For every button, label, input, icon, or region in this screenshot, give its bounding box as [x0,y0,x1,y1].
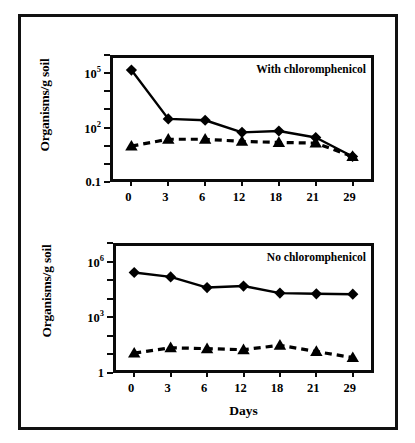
x-axis-tick-label: 21 [306,190,319,205]
x-axis-tick [241,179,243,186]
x-axis-tick-label: 0 [128,381,134,396]
data-point-diamond [129,267,140,278]
y-axis-title-bottom: Organisms/g soil [39,231,55,351]
y-axis-tick [104,54,110,56]
x-axis-tick [167,179,169,186]
y-axis-tick-label: 1 [98,366,104,381]
x-axis-tick-label: 6 [201,381,207,396]
y-axis-tick [107,261,113,263]
y-axis-tick [107,316,113,318]
x-axis-tick-label: 18 [270,190,283,205]
x-axis-title: Days [229,403,258,419]
plot-svg-top [113,58,371,179]
data-point-diamond [347,289,358,300]
x-axis-tick [243,370,245,377]
data-point-triangle [347,351,359,362]
data-point-triangle [310,345,322,356]
x-axis-tick-label: 29 [344,381,357,396]
y-axis-tick-label: 102 [84,119,101,136]
x-axis-tick [315,179,317,186]
y-axis-tick [104,90,110,92]
x-axis-tick-label: 21 [307,381,320,396]
x-axis-tick [133,370,135,377]
x-axis-tick [278,179,280,186]
x-axis-tick [206,370,208,377]
x-axis-tick [170,370,172,377]
x-axis-tick-label: 3 [162,190,168,205]
y-axis-tick [107,335,113,337]
chart-panel-no-chloromphenicol: Organisms/g soil 106103103612182129No ch… [21,235,401,431]
data-point-diamond [200,115,211,126]
y-axis-tick-label: 105 [84,65,101,82]
x-axis-tick-label: 12 [234,381,247,396]
y-axis-tick [107,372,113,374]
y-axis-tick [104,108,110,110]
y-axis-tick [104,181,110,183]
y-axis-tick [104,163,110,165]
y-axis-tick [107,298,113,300]
y-axis-tick [104,127,110,129]
data-point-diamond [273,125,284,136]
data-point-diamond [165,271,176,282]
y-axis-tick [107,242,113,244]
x-axis-tick [352,179,354,186]
plot-svg-bottom [116,246,371,370]
data-point-diamond [238,280,249,291]
x-axis-tick [315,370,317,377]
x-axis-tick-label: 29 [343,190,356,205]
y-axis-tick [104,72,110,74]
y-axis-tick-label: 0.1 [85,175,101,190]
chart-panel-with-chloromphenicol: Organisms/g soil 1051020.103612182129Wit… [21,49,401,231]
panel-condition-label: With chloromphenicol [256,63,366,75]
figure-border: Organisms/g soil 1051020.103612182129Wit… [18,14,398,430]
y-axis-tick-label: 103 [87,309,104,326]
x-axis-tick-label: 3 [165,381,171,396]
data-point-diamond [274,287,285,298]
x-axis-tick [279,370,281,377]
x-axis-tick-label: 12 [233,190,246,205]
y-axis-tick [107,353,113,355]
y-axis-tick-label: 106 [87,253,104,270]
x-axis-tick-label: 18 [271,381,284,396]
y-axis-tick [107,279,113,281]
panel-condition-label: No chloromphenicol [267,251,366,263]
x-axis-tick-label: 6 [199,190,205,205]
data-point-diamond [311,288,322,299]
data-point-diamond [201,282,212,293]
x-axis-tick [352,370,354,377]
x-axis-tick-label: 0 [125,190,131,205]
data-point-triangle [236,135,248,146]
y-axis-title-top: Organisms/g soil [37,45,53,165]
x-axis-tick [204,179,206,186]
x-axis-tick [130,179,132,186]
data-point-triangle [273,136,285,147]
y-axis-tick [104,145,110,147]
